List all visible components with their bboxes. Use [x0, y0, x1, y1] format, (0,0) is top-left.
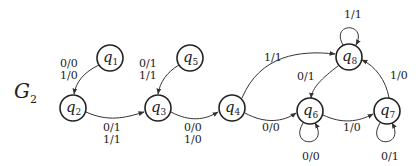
edge-label: 1/1	[103, 133, 121, 146]
state-diagram: G2 0/0 1/0 0/1 1/1 0/1 1/1 0/0 1/0 1/1 0…	[0, 0, 420, 166]
edge-q4-q6	[245, 113, 296, 121]
edge-label: 0/1	[297, 70, 315, 83]
state-q8: q8	[336, 44, 362, 70]
edge-label: 1/1	[344, 8, 362, 21]
edge-q5-q3	[158, 65, 179, 94]
edge-q2-q3	[86, 112, 144, 118]
edge-q3-q4	[171, 112, 218, 119]
edge-label: 1/1	[264, 51, 282, 64]
edge-q1-q2	[74, 65, 99, 94]
state-q3: q3	[145, 95, 171, 121]
state-q1: q1	[97, 45, 123, 71]
state-q4: q4	[219, 95, 245, 121]
edge-label: 1/0	[60, 69, 78, 82]
edge-q6-q7	[323, 114, 373, 121]
state-q7: q7	[374, 98, 400, 124]
edge-label: 1/0	[343, 121, 361, 134]
graph-title: G2	[14, 79, 37, 106]
edge-q7-loop	[377, 123, 395, 142]
state-q6: q6	[297, 98, 323, 124]
edge-q8-q6	[311, 66, 338, 98]
edge-label: 1/0	[184, 133, 202, 146]
edge-q7-q8	[362, 60, 389, 98]
edge-label: 0/0	[262, 121, 280, 134]
edge-label: 0/1	[381, 150, 399, 163]
edge-q6-loop	[300, 123, 319, 142]
edge-label: 1/1	[139, 69, 157, 82]
edge-label: 0/0	[302, 150, 320, 163]
edge-q8-loop	[340, 28, 358, 45]
edge-q4-q8	[242, 53, 335, 98]
edge-label: 1/0	[390, 69, 408, 82]
state-q2: q2	[60, 95, 86, 121]
state-q5: q5	[177, 45, 203, 71]
